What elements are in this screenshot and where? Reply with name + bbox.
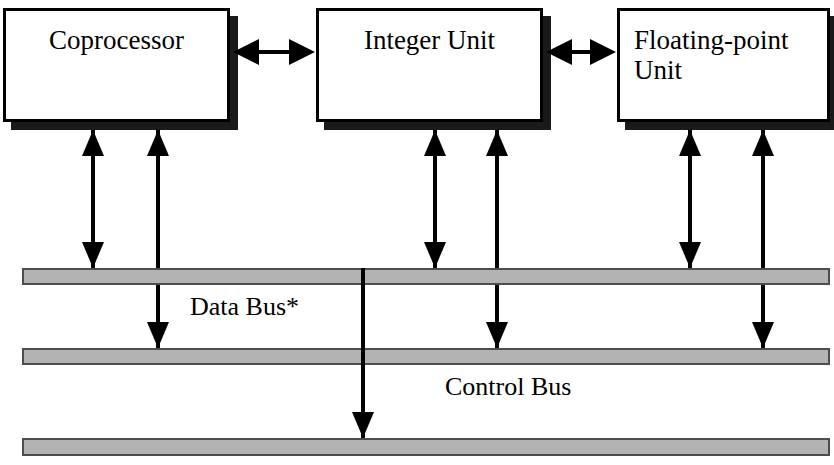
unit-box-floating-point-unit: Floating-point Unit xyxy=(617,8,830,122)
unit-box-coprocessor: Coprocessor xyxy=(3,8,230,122)
arrowhead-down-coprocessor-data-bus-bidirectional xyxy=(82,242,104,268)
arrowhead-down-control-bus-to-third-bus xyxy=(352,412,374,438)
arrowhead-up-integer-unit-data-bus-bidirectional xyxy=(424,130,446,156)
arrowhead-down-fpu-data-bus-bidirectional xyxy=(679,242,701,268)
arrowhead-down-fpu-control-bus-up xyxy=(752,322,774,348)
connector-line-integer-unit-control-bus-up xyxy=(495,130,499,348)
connector-line-integer-unit-to-fpu xyxy=(572,50,590,54)
arrowhead-up-fpu-control-bus-up xyxy=(752,130,774,156)
arrowhead-down-integer-unit-control-bus-up xyxy=(486,322,508,348)
connector-line-coprocessor-to-integer-unit xyxy=(259,50,289,54)
arrowhead-left-coprocessor-to-integer-unit xyxy=(233,39,259,65)
arrowhead-up-integer-unit-control-bus-up xyxy=(486,130,508,156)
arrowhead-left-integer-unit-to-fpu xyxy=(546,39,572,65)
connector-coprocessor-to-integer-unit xyxy=(233,39,315,65)
connector-integer-unit-to-fpu xyxy=(546,39,616,65)
bus-label-data-bus: Data Bus* xyxy=(190,292,299,322)
arrowhead-right-coprocessor-to-integer-unit xyxy=(289,39,315,65)
bus-bar-control-bus xyxy=(22,348,830,365)
bus-label-control-bus: Control Bus xyxy=(445,372,571,402)
unit-label-integer-unit: Integer Unit xyxy=(327,25,532,55)
unit-box-integer-unit: Integer Unit xyxy=(316,8,543,122)
bus-bar-third-bus xyxy=(22,438,830,456)
unit-label-floating-point-unit: Floating-point Unit xyxy=(634,25,819,85)
arrowhead-up-fpu-data-bus-bidirectional xyxy=(679,130,701,156)
arrowhead-down-integer-unit-data-bus-bidirectional xyxy=(424,242,446,268)
connector-line-fpu-control-bus-up xyxy=(761,130,765,348)
unit-label-coprocessor: Coprocessor xyxy=(14,25,219,55)
arrowhead-up-coprocessor-control-bus-up xyxy=(147,130,169,156)
arrowhead-down-coprocessor-control-bus-up xyxy=(147,322,169,348)
arrowhead-right-integer-unit-to-fpu xyxy=(590,39,616,65)
arrowhead-up-coprocessor-data-bus-bidirectional xyxy=(82,130,104,156)
connector-line-coprocessor-control-bus-up xyxy=(156,130,160,348)
diagram-canvas: Data Bus*Control Bus CoprocessorInteger … xyxy=(0,0,834,465)
bus-bar-data-bus xyxy=(22,268,830,285)
